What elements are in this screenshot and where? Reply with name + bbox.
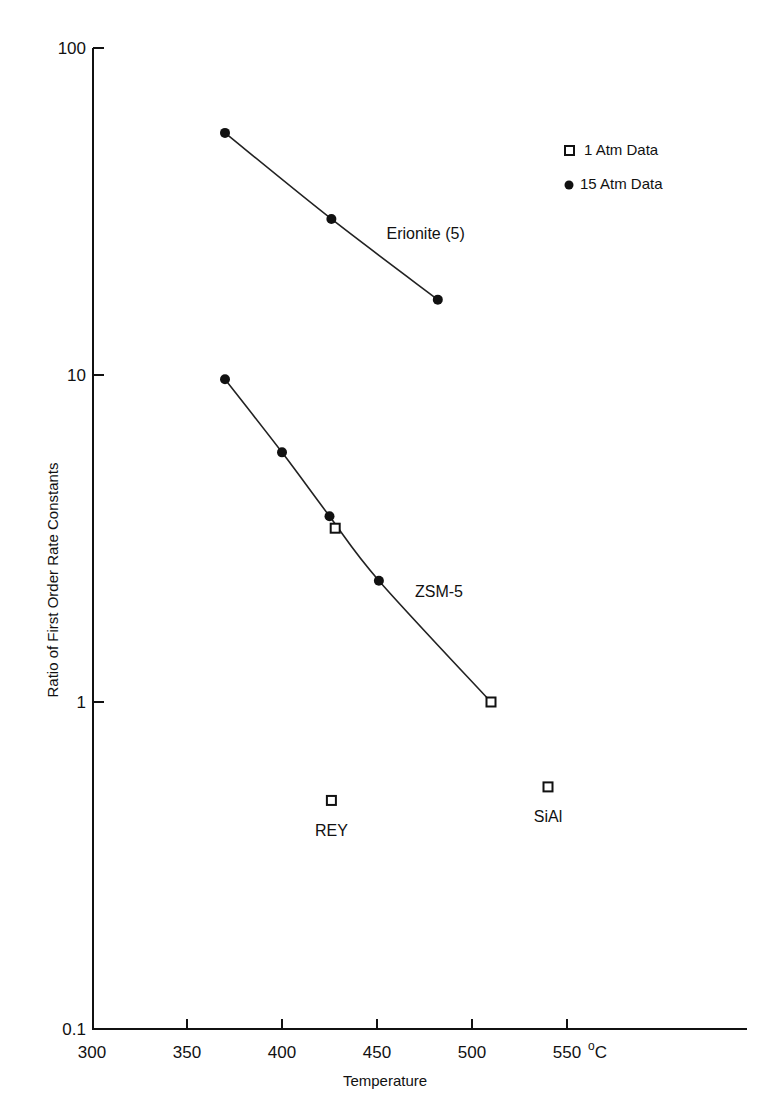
annotation-sial: SiAl	[534, 808, 562, 825]
y-tick-label: 1	[77, 693, 86, 712]
legend-label-15atm: 15 Atm Data	[580, 175, 663, 192]
axes	[92, 48, 747, 1030]
x-tick-label: 550	[553, 1043, 581, 1062]
series-curves	[225, 133, 491, 702]
y-tick-label: 100	[58, 39, 86, 58]
filled-circle-marker	[277, 447, 287, 457]
filled-circle-marker	[220, 128, 230, 138]
filled-circle-marker	[220, 374, 230, 384]
filled-circle-marker	[433, 295, 443, 305]
x-tick-label: 450	[363, 1043, 391, 1062]
y-axis-title: Ratio of First Order Rate Constants	[44, 462, 61, 697]
x-tick-label: 400	[268, 1043, 296, 1062]
x-tick-label: 300	[78, 1043, 106, 1062]
x-axis-title: Temperature	[343, 1072, 427, 1089]
x-tick-label: 500	[458, 1043, 486, 1062]
annotation-zsm-5: ZSM-5	[415, 583, 463, 600]
y-tick-label: 0.1	[62, 1020, 86, 1039]
legend-open-square-icon	[565, 146, 574, 155]
open-square-marker	[487, 698, 496, 707]
chart-canvas: 0.1110100300350400450500550 Erionite (5)…	[0, 0, 783, 1118]
series-annotations: Erionite (5)ZSM-5REYSiAl	[315, 225, 562, 838]
filled-circle-marker	[326, 214, 336, 224]
legend-label-1atm: 1 Atm Data	[584, 141, 659, 158]
legend: 1 Atm Data 15 Atm Data	[565, 141, 664, 192]
open-square-marker	[544, 782, 553, 791]
axis-ticks: 0.1110100300350400450500550	[58, 39, 582, 1062]
filled-circle-marker	[374, 576, 384, 586]
x-tick-label: 350	[173, 1043, 201, 1062]
annotation-erionite-5-: Erionite (5)	[387, 225, 465, 242]
filled-circle-marker	[325, 511, 335, 521]
x-unit-label: oC	[588, 1039, 607, 1062]
open-square-marker	[327, 796, 336, 805]
legend-filled-circle-icon	[565, 181, 574, 190]
curve-zsm-5	[225, 379, 491, 702]
y-tick-label: 10	[67, 366, 86, 385]
open-square-marker	[331, 524, 340, 533]
annotation-rey: REY	[315, 822, 348, 839]
